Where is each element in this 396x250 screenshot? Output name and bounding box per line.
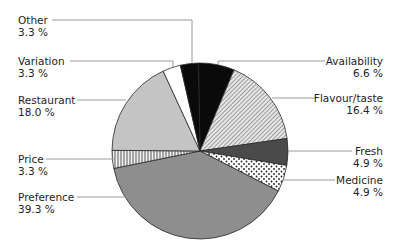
label-other-name: Other: [18, 14, 48, 26]
label-flavour-name: Flavour/taste: [314, 92, 383, 104]
label-flavour-value: 16.4 %: [314, 104, 383, 116]
label-price-name: Price: [18, 153, 48, 165]
label-variation-value: 3.3 %: [18, 67, 65, 79]
label-availability-value: 6.6 %: [326, 67, 383, 79]
label-price: Price 3.3 %: [18, 153, 48, 177]
label-variation: Variation 3.3 %: [18, 55, 65, 79]
label-restaurant-value: 18.0 %: [18, 106, 75, 118]
label-preference-value: 39.3 %: [18, 203, 74, 215]
leader-availability: [218, 61, 325, 64]
leader-other: [52, 20, 192, 63]
label-availability: Availability 6.6 %: [326, 55, 383, 79]
label-medicine: Medicine 4.9 %: [336, 174, 383, 198]
label-restaurant: Restaurant 18.0 %: [18, 94, 75, 118]
label-preference: Preference 39.3 %: [18, 191, 74, 215]
label-price-value: 3.3 %: [18, 165, 48, 177]
label-fresh: Fresh 4.9 %: [353, 145, 383, 169]
label-other: Other 3.3 %: [18, 14, 48, 38]
leader-variation: [70, 61, 173, 67]
label-preference-name: Preference: [18, 191, 74, 203]
label-fresh-value: 4.9 %: [353, 157, 383, 169]
label-flavour: Flavour/taste 16.4 %: [314, 92, 383, 116]
label-medicine-name: Medicine: [336, 174, 383, 186]
pie-slices: [112, 63, 288, 239]
label-restaurant-name: Restaurant: [18, 94, 75, 106]
label-medicine-value: 4.9 %: [336, 186, 383, 198]
label-availability-name: Availability: [326, 55, 383, 67]
label-fresh-name: Fresh: [353, 145, 383, 157]
label-other-value: 3.3 %: [18, 26, 48, 38]
label-variation-name: Variation: [18, 55, 65, 67]
